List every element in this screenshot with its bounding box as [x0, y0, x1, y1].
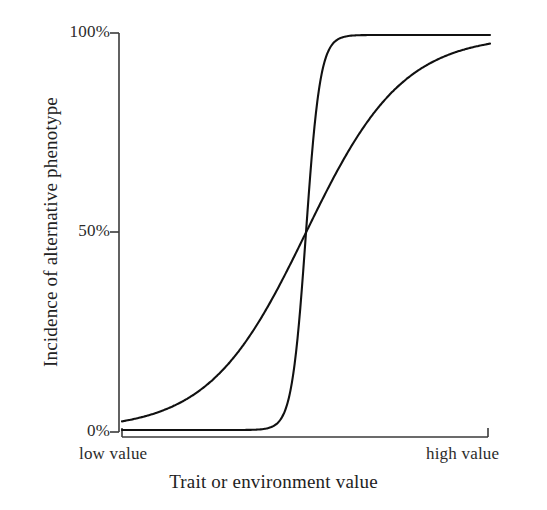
y-axis: [110, 33, 119, 432]
data-curves: [122, 35, 490, 430]
x-tick-label-high-value: high value: [426, 444, 499, 464]
chart-figure: 100% 50% 0% low value high value Trait o…: [0, 0, 547, 510]
x-axis-title: Trait or environment value: [0, 471, 547, 493]
x-tick-label-low-value: low value: [79, 444, 147, 464]
curve-threshold-response: [122, 35, 490, 430]
y-axis-title: Incidence of alternative phenotype: [40, 32, 62, 432]
